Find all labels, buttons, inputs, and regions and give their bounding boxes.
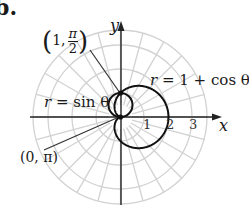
x-tick-2: 2 bbox=[166, 118, 174, 131]
pi-over-2-fraction: π2 bbox=[68, 27, 79, 55]
x-tick-1: 1 bbox=[143, 118, 151, 131]
point-origin bbox=[118, 114, 123, 119]
equals-sign: = bbox=[162, 71, 175, 89]
point-1-pi-over-2 bbox=[118, 90, 123, 95]
cardioid-equation-label: r = 1 + cos θ bbox=[150, 73, 249, 88]
cardioid-eq-lhs: r bbox=[150, 71, 157, 89]
equals-sign: = bbox=[56, 93, 69, 111]
x-axis-label: x bbox=[219, 118, 228, 134]
point-label-1-pi-over-2: (1,π2) bbox=[42, 27, 88, 55]
point-r-value: 1 bbox=[52, 32, 61, 48]
circle-equation-label: r = sin θ bbox=[44, 95, 109, 110]
circle-eq-lhs: r bbox=[44, 93, 51, 111]
cardioid-eq-rhs: 1 + cos θ bbox=[179, 71, 249, 89]
polar-graph bbox=[0, 0, 249, 209]
x-tick-3: 3 bbox=[189, 118, 197, 131]
y-axis-label: y bbox=[110, 18, 119, 34]
part-label: b. bbox=[0, 0, 17, 18]
circle-eq-rhs: sin θ bbox=[73, 93, 109, 111]
point-label-0-pi: (0, π) bbox=[20, 150, 58, 164]
